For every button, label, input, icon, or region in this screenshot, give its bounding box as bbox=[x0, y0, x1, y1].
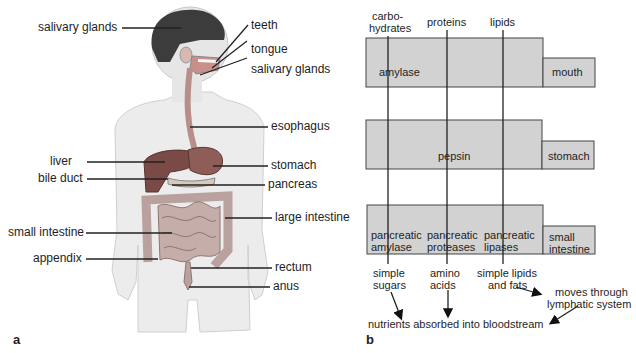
label-stomach: stomach bbox=[271, 159, 316, 172]
mouth-enzyme-box bbox=[366, 38, 543, 87]
mouth-row bbox=[366, 38, 595, 87]
label-anus: anus bbox=[273, 280, 299, 293]
product-amino-acids-line1: amino bbox=[430, 267, 460, 279]
label-teeth: teeth bbox=[251, 19, 278, 32]
nutrient-proteins: proteins bbox=[427, 16, 466, 28]
label-bile-duct: bile duct bbox=[38, 172, 83, 185]
label-liver: liver bbox=[50, 155, 72, 168]
label-appendix: appendix bbox=[33, 252, 82, 265]
enzyme-pancreatic-proteases-line2: proteases bbox=[427, 241, 475, 253]
enzyme-pancreatic-lipases-line2: lipases bbox=[484, 241, 518, 253]
product-amino-acids-line2: acids bbox=[430, 279, 456, 291]
label-small-intestine: small intestine bbox=[8, 226, 84, 239]
label-rectum: rectum bbox=[275, 261, 312, 274]
label-large-intestine: large intestine bbox=[275, 211, 350, 224]
organ-mouth: mouth bbox=[552, 66, 583, 78]
enzyme-pancreatic-amylase-line1: pancreatic bbox=[371, 229, 422, 241]
label-salivary-glands-left: salivary glands bbox=[38, 21, 117, 34]
organ-small-intestine-line1: small bbox=[549, 231, 575, 243]
enzyme-pancreatic-amylase-line2: amylase bbox=[371, 241, 412, 253]
stomach-shape bbox=[188, 147, 222, 174]
enzyme-pancreatic-lipases-line1: pancreatic bbox=[484, 229, 535, 241]
lymphatic-line1: moves through bbox=[555, 286, 628, 298]
lymphatic-line2: lymphatic system bbox=[547, 298, 631, 310]
digestive-system-illustration bbox=[0, 0, 636, 353]
enzyme-pancreatic-proteases-line1: pancreatic bbox=[427, 229, 478, 241]
panel-letter-a: a bbox=[13, 332, 20, 347]
enzyme-pepsin: pepsin bbox=[438, 150, 470, 162]
nutrient-carbohydrates-line2: hydrates bbox=[369, 22, 411, 34]
bloodstream-caption: nutrients absorbed into bloodstream bbox=[368, 318, 544, 330]
product-simple-lipids-line1: simple lipids bbox=[477, 267, 537, 279]
product-simple-lipids-line2: and fats bbox=[488, 279, 527, 291]
label-esophagus: esophagus bbox=[271, 120, 330, 133]
nutrient-lipids: lipids bbox=[490, 16, 515, 28]
small-intestine-shape bbox=[158, 202, 220, 262]
enzyme-amylase: amylase bbox=[379, 66, 420, 78]
product-simple-sugars-line1: simple bbox=[373, 267, 405, 279]
organ-stomach: stomach bbox=[548, 150, 590, 162]
panel-letter-b: b bbox=[366, 332, 374, 347]
label-pancreas: pancreas bbox=[268, 178, 317, 191]
label-salivary-glands-right: salivary glands bbox=[251, 63, 330, 76]
salivary-gland-shape bbox=[180, 47, 192, 63]
label-tongue: tongue bbox=[251, 43, 288, 56]
product-simple-sugars-line2: sugars bbox=[373, 279, 406, 291]
organ-small-intestine-line2: intestine bbox=[549, 243, 590, 255]
sugars-arrow bbox=[391, 292, 401, 318]
nutrient-carbohydrates-line1: carbo- bbox=[372, 10, 403, 22]
